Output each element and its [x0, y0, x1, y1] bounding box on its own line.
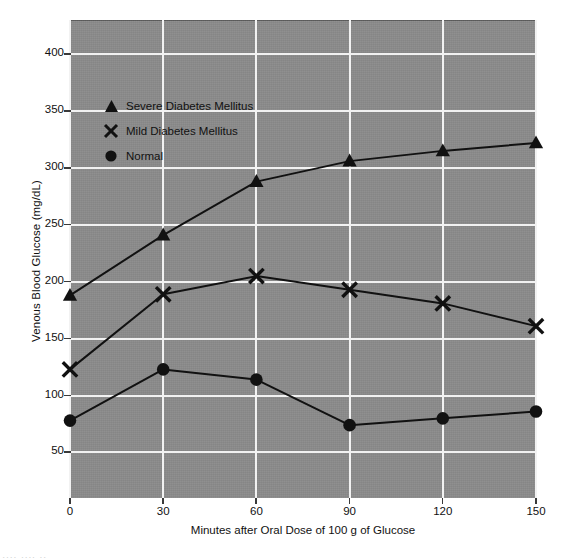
plot-area [70, 20, 536, 498]
y-tick-mark-300 [64, 167, 71, 169]
gridline-y-150 [70, 338, 536, 340]
x-tick-label-90: 90 [320, 505, 380, 517]
y-tick-label-350: 350 [10, 103, 64, 115]
gridline-x-90 [349, 20, 351, 498]
x-tick-label-0: 0 [40, 505, 100, 517]
y-tick-label-300: 300 [10, 160, 64, 172]
gridline-x-0 [69, 20, 71, 498]
legend-item-severe: Severe Diabetes Mellitus [100, 98, 253, 113]
legend-label-normal: Normal [126, 150, 163, 162]
gridline-x-150 [535, 20, 537, 498]
triangle-marker-icon [100, 98, 122, 113]
y-tick-mark-250 [64, 224, 71, 226]
x-tick-label-60: 60 [226, 505, 286, 517]
plot-background-texture [70, 20, 536, 498]
x-tick-label-150: 150 [506, 505, 562, 517]
gridline-y-50 [70, 451, 536, 453]
x-tick-label-120: 120 [413, 505, 473, 517]
gridline-y-250 [70, 224, 536, 226]
y-tick-mark-150 [64, 338, 71, 340]
x-tick-mark-150 [535, 498, 537, 504]
y-tick-label-400: 400 [10, 46, 64, 58]
x-tick-mark-60 [255, 498, 257, 504]
x-tick-mark-120 [442, 498, 444, 504]
gridline-x-30 [162, 20, 164, 498]
x-tick-label-30: 30 [133, 505, 193, 517]
y-tick-label-250: 250 [10, 217, 64, 229]
y-tick-label-200: 200 [10, 274, 64, 286]
chart-legend: Severe Diabetes Mellitus Mild Diabetes M… [100, 98, 253, 163]
x-tick-mark-30 [162, 498, 164, 504]
legend-label-severe: Severe Diabetes Mellitus [126, 100, 253, 112]
gridline-y-300 [70, 167, 536, 169]
y-tick-mark-50 [64, 451, 71, 453]
legend-label-mild: Mild Diabetes Mellitus [126, 125, 238, 137]
x-axis-title: Minutes after Oral Dose of 100 g of Gluc… [70, 524, 536, 536]
y-tick-label-50: 50 [10, 444, 64, 456]
chart-figure: Venous Blood Glucose (mg/dL) 50100150200… [0, 0, 562, 558]
x-marker-icon [100, 123, 122, 138]
y-tick-label-100: 100 [10, 388, 64, 400]
gridline-x-60 [255, 20, 257, 498]
legend-item-normal: Normal [100, 148, 253, 163]
caption-fragment: .... .... .. [2, 549, 47, 558]
gridline-y-100 [70, 395, 536, 397]
y-tick-mark-350 [64, 110, 71, 112]
y-tick-mark-400 [64, 53, 71, 55]
circle-marker-icon [100, 148, 122, 163]
gridline-y-200 [70, 281, 536, 283]
y-tick-mark-200 [64, 281, 71, 283]
y-tick-label-150: 150 [10, 331, 64, 343]
gridline-y-400 [70, 53, 536, 55]
x-tick-mark-90 [349, 498, 351, 504]
x-tick-mark-0 [69, 498, 71, 504]
y-tick-mark-100 [64, 395, 71, 397]
legend-item-mild: Mild Diabetes Mellitus [100, 123, 253, 138]
gridline-x-120 [442, 20, 444, 498]
